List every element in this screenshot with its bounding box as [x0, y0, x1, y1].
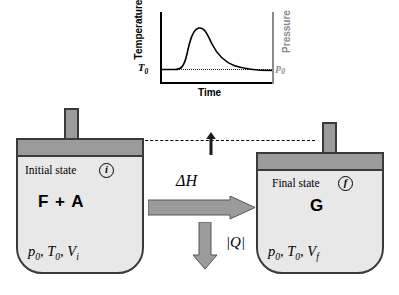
final-state-symbol-badge: f: [338, 176, 353, 191]
initial-state-species: F + A: [38, 192, 84, 212]
initial-state-piston: [16, 138, 144, 157]
enthalpy-change-label: ΔH: [176, 172, 197, 190]
initial-state-label: Initial state: [25, 164, 76, 176]
final-state-label: Final state: [272, 177, 320, 189]
diagram-root: Temperature Pressure Time T0 p0 Initial …: [0, 0, 399, 295]
plot-y2label: Pressure: [281, 4, 292, 60]
process-arrow-icon: [148, 196, 256, 220]
heat-label: |Q|: [226, 234, 245, 251]
height-difference-arrow-icon: [203, 132, 219, 158]
initial-state-symbol-badge: i: [99, 163, 114, 178]
final-state-conditions: p0, T0, Vf: [268, 243, 319, 262]
heat-arrow-icon: [192, 222, 220, 270]
initial-state-conditions: p0, T0, Vi: [28, 243, 79, 262]
inset-plot: Temperature Pressure Time T0 p0: [126, 10, 286, 102]
plot-xlabel: Time: [198, 87, 221, 98]
plot-ytick-T0: T0: [138, 62, 148, 76]
final-state-piston: [256, 152, 384, 171]
final-state-species: G: [310, 196, 324, 216]
final-state-piston-rod: [322, 122, 337, 154]
initial-state-piston-rod: [64, 108, 79, 140]
plot-y2tick-p0: p0: [276, 62, 285, 76]
level-dashed-line: [140, 140, 315, 141]
plot-ylabel: Temperature: [133, 0, 144, 62]
